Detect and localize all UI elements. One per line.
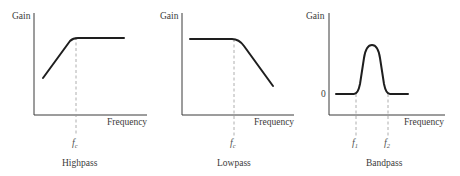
y-axis-label: Gain bbox=[160, 11, 179, 21]
bandpass-curve bbox=[336, 45, 408, 94]
lowpass-curve bbox=[190, 39, 273, 86]
highpass-panel: Gain Frequency fc Highpass bbox=[12, 11, 147, 168]
panel-caption: Lowpass bbox=[217, 158, 251, 168]
cutoff-frequency-label: fc bbox=[72, 137, 78, 149]
upper-cutoff-label: f2 bbox=[384, 137, 391, 149]
axes bbox=[329, 13, 445, 115]
cutoff-frequency-label: fc bbox=[230, 137, 236, 149]
lower-cutoff-label: f1 bbox=[352, 137, 358, 149]
bandpass-panel: Gain 0 Frequency f1 f2 Bandpass bbox=[306, 11, 445, 168]
x-axis-label: Frequency bbox=[404, 117, 444, 127]
panel-caption: Highpass bbox=[62, 158, 98, 168]
highpass-curve bbox=[43, 38, 124, 78]
panel-caption: Bandpass bbox=[366, 158, 403, 168]
y-axis-label: Gain bbox=[306, 11, 325, 21]
axes bbox=[34, 13, 147, 115]
filter-response-diagram: Gain Frequency fc Highpass Gain Frequenc… bbox=[0, 0, 460, 176]
zero-gain-label: 0 bbox=[321, 89, 326, 99]
lowpass-panel: Gain Frequency fc Lowpass bbox=[160, 11, 294, 168]
axes bbox=[182, 13, 294, 115]
y-axis-label: Gain bbox=[12, 11, 31, 21]
x-axis-label: Frequency bbox=[107, 117, 147, 127]
x-axis-label: Frequency bbox=[254, 117, 294, 127]
